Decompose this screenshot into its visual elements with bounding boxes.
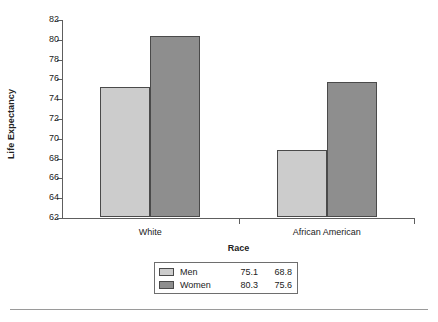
y-tick-label: 78 xyxy=(49,53,59,65)
bar xyxy=(100,87,150,217)
footer-divider xyxy=(10,309,428,310)
y-axis-title: Life Expectancy xyxy=(6,54,20,194)
legend-swatch-icon xyxy=(159,268,174,276)
x-tick-mark xyxy=(414,219,415,224)
bar xyxy=(150,36,200,217)
y-tick-label: 80 xyxy=(49,33,59,45)
y-tick-label: 76 xyxy=(49,72,59,84)
y-tick-label: 82 xyxy=(49,13,59,25)
legend-swatch-icon xyxy=(159,281,174,289)
legend-row: Men75.168.8 xyxy=(159,265,292,278)
y-axis-line xyxy=(62,20,63,219)
y-tick-label: 70 xyxy=(49,132,59,144)
x-category-label: White xyxy=(139,226,162,238)
chart-legend: Men75.168.8Women80.375.6 xyxy=(154,262,298,294)
bar xyxy=(327,82,377,217)
x-category-label: African American xyxy=(293,226,361,238)
y-tick-label: 64 xyxy=(49,191,59,203)
legend-value: 75.1 xyxy=(228,266,258,278)
plot-area: 6264666870727476788082 WhiteAfrican Amer… xyxy=(62,20,415,218)
bar xyxy=(277,150,327,217)
y-tick-label: 68 xyxy=(49,152,59,164)
bar-chart-figure: Life Expectancy 6264666870727476788082 W… xyxy=(0,0,438,322)
y-tick-label: 72 xyxy=(49,112,59,124)
y-tick-label: 74 xyxy=(49,92,59,104)
legend-value: 75.6 xyxy=(262,279,292,291)
legend-value: 80.3 xyxy=(228,279,258,291)
x-tick-mark xyxy=(239,219,240,224)
legend-row: Women80.375.6 xyxy=(159,278,292,291)
y-tick-label: 62 xyxy=(49,211,59,223)
legend-series-name: Women xyxy=(180,279,224,291)
legend-series-name: Men xyxy=(180,266,224,278)
y-tick-label: 66 xyxy=(49,171,59,183)
legend-value: 68.8 xyxy=(262,266,292,278)
x-axis-title: Race xyxy=(62,243,415,253)
